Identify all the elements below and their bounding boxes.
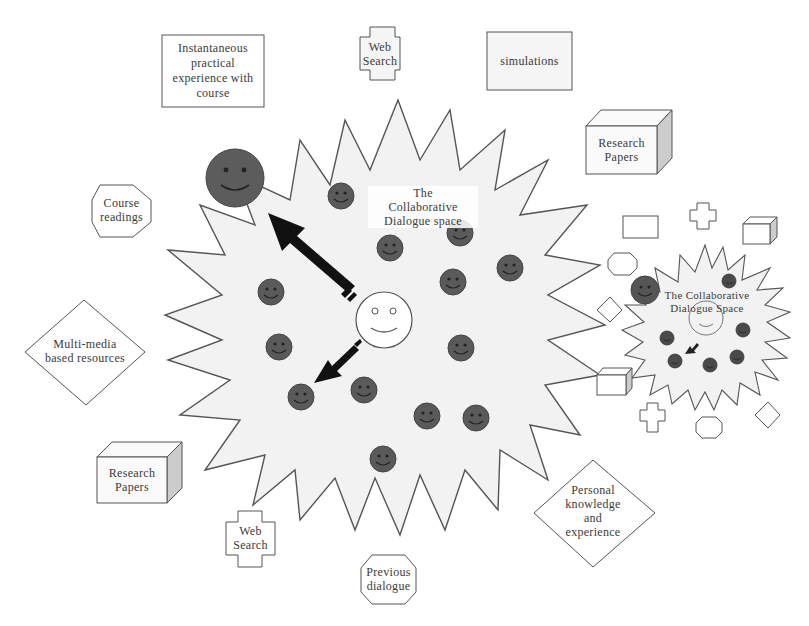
instantaneous-label: Instantaneous practical experience with …	[162, 41, 264, 101]
label-line: and	[548, 511, 638, 525]
label-line: Course	[92, 196, 151, 210]
mini-octagon-left-icon	[608, 253, 637, 275]
web-search-top-label: Web Search	[360, 40, 400, 68]
label-line: dialogue	[359, 579, 418, 593]
label-line: Search	[226, 538, 275, 552]
label-line: Instantaneous	[162, 41, 264, 56]
mini-participant-smiley-icon	[668, 354, 682, 368]
label-line: knowledge	[548, 497, 638, 511]
personal-knowledge-label: Personal knowledge and experience	[548, 483, 638, 539]
label-line: Research	[586, 136, 657, 150]
research-papers-bottom-label: Research Papers	[97, 466, 167, 494]
participant-smiley-icon	[288, 384, 314, 410]
label-line: experience	[548, 525, 638, 539]
research-papers-top-label: Research Papers	[586, 136, 657, 164]
mini-cross-top-icon	[690, 203, 716, 229]
participant-smiley-icon	[440, 269, 466, 295]
label-line: Papers	[586, 150, 657, 164]
participant-smiley-icon	[266, 334, 292, 360]
mini-participant-smiley-icon	[660, 331, 674, 345]
mini-space-label: The Collaborative Dialogue Space	[652, 289, 762, 315]
mini-participant-smiley-icon	[722, 274, 736, 288]
mini-cross-bottom-icon	[640, 403, 665, 432]
main-space-label-line: The	[368, 186, 478, 200]
mini-participant-smiley-icon	[730, 350, 744, 364]
participant-smiley-icon	[414, 403, 440, 429]
mini-octagon-bottom-icon	[696, 417, 722, 438]
previous-dialogue-label: Previous dialogue	[359, 565, 418, 593]
participant-smiley-icon	[370, 446, 396, 472]
label-line: simulations	[487, 54, 572, 68]
participant-smiley-icon	[351, 377, 377, 403]
mini-participant-smiley-icon	[736, 323, 750, 337]
label-line: Research	[97, 466, 167, 480]
course-readings-label: Course readings	[92, 196, 151, 224]
mini-cube-top-icon	[743, 217, 777, 244]
central-learner-smiley-icon	[356, 292, 412, 348]
label-line: based resources	[30, 351, 140, 365]
label-line: Personal	[548, 483, 638, 497]
label-line: Multi-media	[30, 337, 140, 351]
participant-smiley-icon	[328, 183, 354, 209]
mini-collaborative-space-starburst	[622, 245, 790, 410]
web-search-bottom-label: Web Search	[226, 524, 275, 552]
label-line: experience with	[162, 71, 264, 86]
label-line: Web	[226, 524, 275, 538]
mini-cube-bottom-icon	[597, 368, 632, 395]
label-line: course	[162, 86, 264, 101]
mini-participant-smiley-icon	[703, 358, 717, 372]
main-space-label-line: Collaborative	[368, 200, 478, 214]
main-space-label-line: Dialogue space	[368, 214, 478, 228]
simulations-label: simulations	[487, 54, 572, 68]
label-line: Web	[360, 40, 400, 54]
participant-smiley-icon	[377, 235, 403, 261]
participant-smiley-icon	[463, 405, 489, 431]
mini-space-label-line: The Collaborative	[652, 289, 762, 302]
label-line: Previous	[359, 565, 418, 579]
multimedia-label: Multi-media based resources	[30, 337, 140, 365]
label-line: Search	[360, 54, 400, 68]
participant-smiley-icon	[497, 255, 523, 281]
label-line: practical	[162, 56, 264, 71]
main-space-label: The Collaborative Dialogue space	[368, 186, 478, 228]
mini-diamond-left-icon	[597, 297, 622, 322]
departing-participant-smiley-icon	[206, 149, 264, 207]
participant-smiley-icon	[448, 335, 474, 361]
mini-space-label-line: Dialogue Space	[652, 302, 762, 315]
label-line: readings	[92, 210, 151, 224]
label-line: Papers	[97, 480, 167, 494]
participant-smiley-icon	[258, 279, 284, 305]
mini-rectangle-icon	[623, 216, 658, 238]
mini-diamond-bottom-icon	[755, 402, 780, 428]
